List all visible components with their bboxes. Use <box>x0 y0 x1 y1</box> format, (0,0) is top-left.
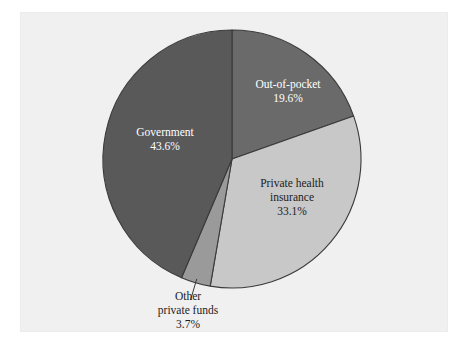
pie-label-other-private-funds: Otherprivate funds3.7% <box>158 290 219 330</box>
pie-chart: Out-of-pocket19.6%Private healthinsuranc… <box>0 0 470 344</box>
pie-slices <box>103 30 361 288</box>
pie-chart-svg: Out-of-pocket19.6%Private healthinsuranc… <box>0 0 470 344</box>
figure-root: Out-of-pocket19.6%Private healthinsuranc… <box>0 0 470 344</box>
